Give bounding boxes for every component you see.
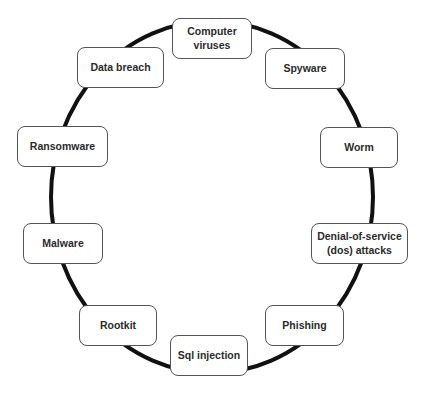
node-computer-viruses: Computer viruses [172, 18, 252, 59]
node-sql-injection: Sql injection [170, 335, 248, 376]
node-label: Sql injection [178, 349, 240, 362]
node-denial-of-service: Denial-of-service (dos) attacks [311, 223, 408, 264]
node-ransomware: Ransomware [17, 126, 108, 167]
node-label-line2: (dos) attacks [317, 244, 402, 257]
node-label: Data breach [90, 61, 150, 74]
node-label: Spyware [283, 62, 326, 75]
node-spyware: Spyware [265, 48, 345, 89]
node-label: Rootkit [100, 319, 136, 332]
node-label-line2: viruses [187, 39, 237, 52]
node-label: Ransomware [30, 140, 95, 153]
node-phishing: Phishing [265, 305, 344, 346]
node-label-line1: Denial-of-service [317, 230, 402, 243]
node-label: Worm [344, 141, 374, 154]
node-data-breach: Data breach [77, 47, 164, 88]
node-label: Phishing [282, 319, 326, 332]
node-worm: Worm [320, 127, 398, 168]
node-rootkit: Rootkit [79, 305, 157, 346]
cyber-threats-cycle-diagram: Computer viruses Spyware Worm Denial-of-… [0, 0, 425, 396]
node-label-line1: Computer [187, 25, 237, 38]
node-malware: Malware [23, 223, 103, 264]
node-label: Malware [42, 237, 83, 250]
